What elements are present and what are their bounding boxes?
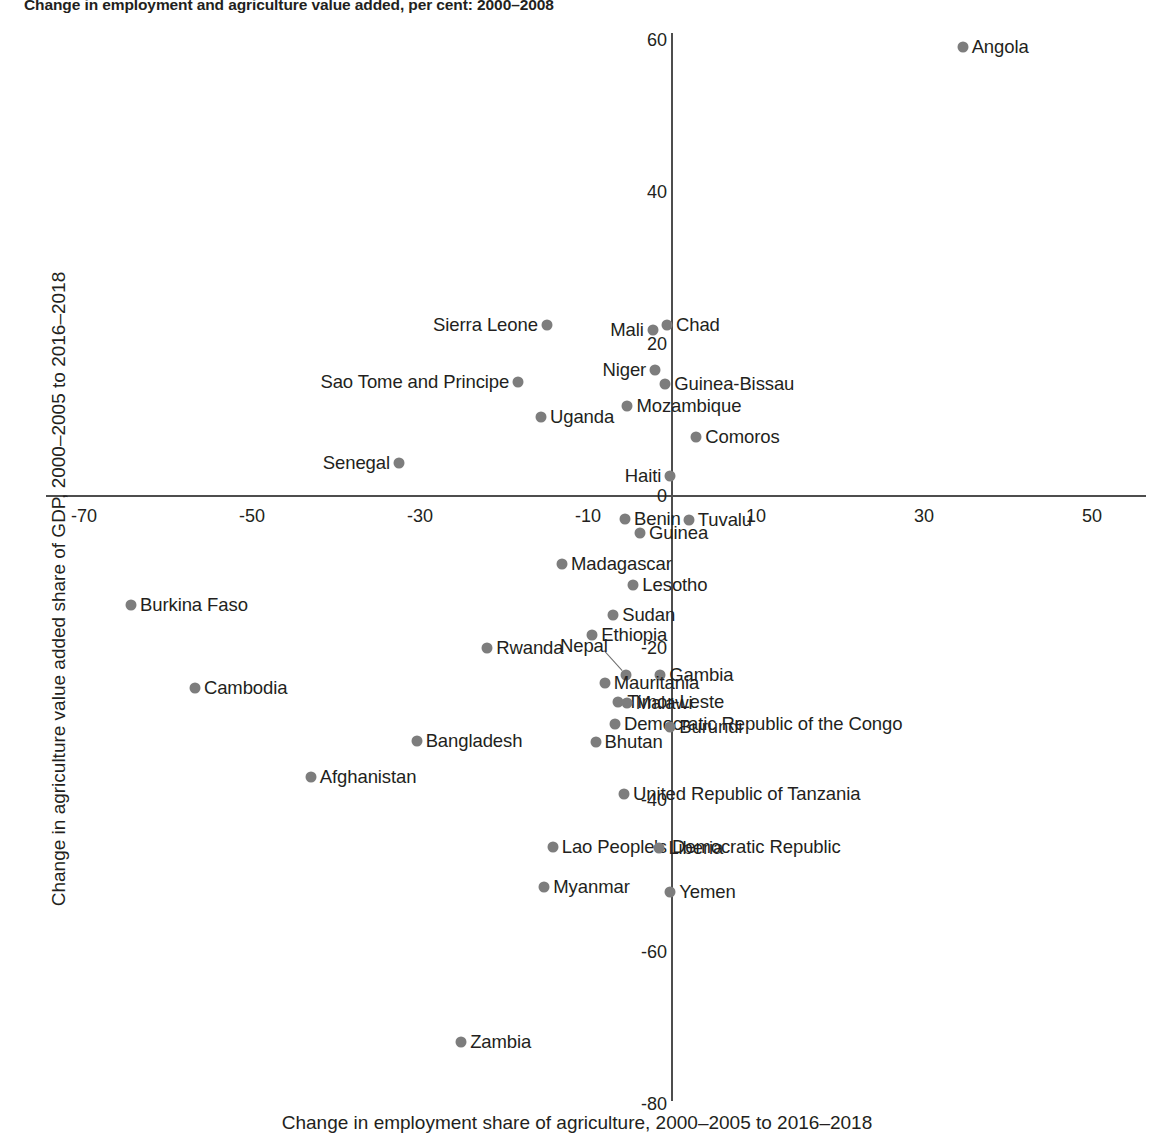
data-point[interactable] (622, 401, 633, 412)
data-point[interactable] (957, 41, 968, 52)
data-point[interactable] (411, 735, 422, 746)
data-point[interactable] (665, 886, 676, 897)
data-point[interactable] (660, 379, 671, 390)
point-label: Rwanda (496, 639, 563, 658)
point-label: Burundi (679, 718, 742, 737)
data-point[interactable] (482, 643, 493, 654)
point-label: Haiti (625, 467, 662, 486)
y-tick-label: 0 (657, 487, 667, 505)
data-point[interactable] (665, 722, 676, 733)
data-point[interactable] (590, 737, 601, 748)
y-tick-label: 40 (647, 183, 667, 201)
data-point[interactable] (654, 842, 665, 853)
x-tick-label: -10 (575, 507, 601, 525)
point-label: Zambia (470, 1033, 531, 1052)
point-label: Myanmar (553, 878, 629, 897)
point-label: Lesotho (642, 576, 707, 595)
point-label: Chad (676, 316, 720, 335)
data-point[interactable] (647, 325, 658, 336)
data-point[interactable] (126, 599, 137, 610)
point-label: Mozambique (636, 397, 741, 416)
data-point[interactable] (394, 458, 405, 469)
data-point[interactable] (456, 1037, 467, 1048)
point-label: Bhutan (605, 733, 663, 752)
point-label: Sao Tome and Principe (320, 373, 509, 392)
y-tick-label: -80 (641, 1095, 667, 1113)
point-label: Liberia (668, 839, 723, 858)
point-label: Bangladesh (426, 731, 523, 750)
data-point[interactable] (661, 320, 672, 331)
y-axis-title: Change in agriculture value added share … (48, 194, 70, 984)
data-point[interactable] (305, 772, 316, 783)
data-point[interactable] (665, 471, 676, 482)
x-axis-line (46, 495, 1146, 497)
data-point[interactable] (189, 682, 200, 693)
point-label: Cambodia (204, 678, 288, 697)
data-point[interactable] (547, 842, 558, 853)
point-label: Sudan (622, 606, 675, 625)
data-point[interactable] (599, 677, 610, 688)
data-point[interactable] (535, 411, 546, 422)
y-tick-label: 20 (647, 335, 667, 353)
point-label: Mauritania (614, 674, 699, 693)
point-label: Burkina Faso (140, 595, 248, 614)
data-point[interactable] (691, 431, 702, 442)
data-point[interactable] (541, 320, 552, 331)
x-tick-label: -50 (239, 507, 265, 525)
point-label: Uganda (550, 408, 614, 427)
x-tick-label: 30 (914, 507, 934, 525)
point-label: Afghanistan (320, 768, 417, 787)
data-point[interactable] (556, 559, 567, 570)
data-point[interactable] (619, 513, 630, 524)
point-label: Malawi (636, 693, 693, 712)
data-point[interactable] (608, 610, 619, 621)
point-label: Sierra Leone (433, 316, 538, 335)
point-label: United Republic of Tanzania (633, 785, 860, 804)
x-tick-label: 50 (1082, 507, 1102, 525)
point-label: Nepal (560, 637, 608, 656)
point-label: Ethiopia (601, 626, 667, 645)
data-point[interactable] (635, 528, 646, 539)
point-label: Niger (602, 361, 646, 380)
point-label: Comoros (705, 427, 779, 446)
data-point[interactable] (650, 364, 661, 375)
data-point[interactable] (609, 719, 620, 730)
data-point[interactable] (619, 788, 630, 799)
data-point[interactable] (513, 377, 524, 388)
y-tick-label: -60 (641, 943, 667, 961)
scatter-plot: -70-50-30-10103050 6040200-20-40-60-80 A… (0, 0, 1154, 1141)
x-axis-title: Change in employment share of agricultur… (0, 1112, 1154, 1134)
data-point[interactable] (539, 882, 550, 893)
point-label: Mali (610, 321, 644, 340)
point-label: Angola (972, 38, 1029, 57)
point-label: Madagascar (571, 555, 672, 574)
y-tick-label: 60 (647, 31, 667, 49)
point-label: Guinea (649, 524, 708, 543)
x-tick-label: -30 (407, 507, 433, 525)
data-point[interactable] (621, 697, 632, 708)
data-point[interactable] (628, 579, 639, 590)
point-label: Yemen (679, 883, 735, 902)
point-label: Senegal (323, 454, 390, 473)
x-tick-label: -70 (71, 507, 97, 525)
point-label: Guinea-Bissau (674, 375, 794, 394)
